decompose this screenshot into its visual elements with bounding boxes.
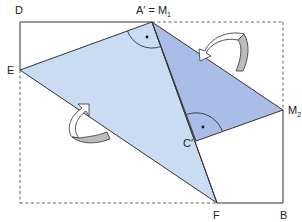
folding-diagram — [0, 0, 302, 222]
label-Cprime: C′ — [183, 138, 193, 149]
label-F: F — [213, 210, 220, 221]
label-M2-letter: M — [288, 104, 297, 116]
label-D: D — [15, 5, 23, 16]
label-M1-subscript: 1 — [167, 11, 171, 18]
label-E: E — [7, 65, 14, 76]
label-B: B — [280, 210, 287, 221]
label-Aprime-eq-M: A′ = M — [136, 4, 167, 16]
label-Aprime-M1: A′ = M1 — [136, 5, 171, 18]
label-M2-subscript: 2 — [297, 111, 301, 118]
label-M2: M2 — [288, 105, 301, 118]
